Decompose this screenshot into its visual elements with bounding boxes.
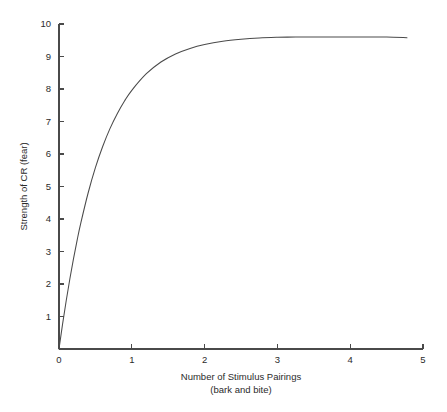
x-tick-label-2: 2 [202, 354, 207, 365]
chart-plot-area: 12345678910 012345 Strength of CR (fear)… [0, 0, 447, 412]
y-tick-label-5: 5 [46, 181, 51, 192]
x-tick-label-3: 3 [275, 354, 280, 365]
y-tick-label-10: 10 [40, 18, 51, 29]
data-curve-0 [59, 37, 407, 349]
x-tick-label-0: 0 [56, 354, 61, 365]
y-tick-label-9: 9 [46, 51, 51, 62]
y-tick-label-4: 4 [46, 213, 51, 224]
x-axis: 012345 [56, 344, 425, 365]
x-axis-title-line1: Number of Stimulus Pairings [181, 371, 302, 382]
y-tick-label-7: 7 [46, 116, 51, 127]
y-tick-label-6: 6 [46, 148, 51, 159]
y-axis: 12345678910 [40, 18, 64, 349]
y-tick-label-1: 1 [46, 311, 51, 322]
data-series-group [59, 37, 407, 349]
x-tick-label-5: 5 [420, 354, 425, 365]
x-tick-label-1: 1 [129, 354, 134, 365]
chart-container: 12345678910 012345 Strength of CR (fear)… [0, 0, 447, 412]
x-tick-label-4: 4 [348, 354, 353, 365]
x-axis-title-line2: (bark and bite) [210, 384, 271, 395]
y-tick-label-3: 3 [46, 246, 51, 257]
y-axis-title: Strength of CR (fear) [18, 142, 29, 230]
y-tick-label-8: 8 [46, 83, 51, 94]
y-tick-label-2: 2 [46, 278, 51, 289]
